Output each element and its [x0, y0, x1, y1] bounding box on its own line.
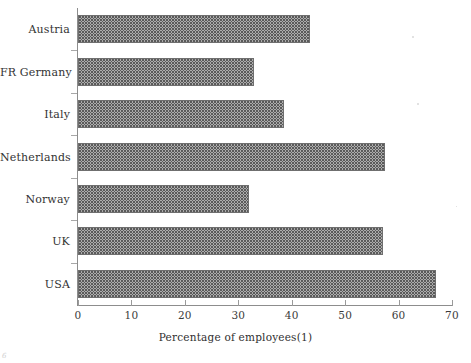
x-tick-label: 60 — [392, 309, 406, 321]
x-tick-label: 70 — [445, 309, 459, 321]
scan-speck — [417, 103, 419, 105]
y-tick — [71, 220, 77, 221]
bar-chart: AustriaFR GermanyItalyNetherlandsNorwayU… — [0, 0, 471, 363]
category-label-usa: USA — [0, 277, 70, 290]
category-label-norway: Norway — [0, 192, 70, 205]
x-tick — [345, 300, 346, 306]
x-tick — [185, 300, 186, 306]
x-tick-label: 20 — [178, 309, 192, 321]
y-tick — [71, 135, 77, 136]
x-tick — [238, 300, 239, 306]
y-tick — [71, 178, 77, 179]
x-tick-label: 30 — [231, 309, 245, 321]
scan-speck — [412, 36, 414, 38]
x-tick — [452, 300, 453, 306]
category-label-uk: UK — [0, 235, 70, 248]
x-axis-line — [77, 305, 453, 306]
bar-usa — [78, 270, 436, 298]
x-axis-title: Percentage of employees(1) — [0, 331, 471, 343]
bar-fr-germany — [78, 58, 254, 86]
x-tick-label: 0 — [75, 309, 82, 321]
x-tick-label: 50 — [338, 309, 352, 321]
x-tick — [78, 300, 79, 306]
scan-speck — [456, 206, 457, 207]
bar-austria — [78, 15, 310, 43]
y-tick — [71, 263, 77, 264]
category-label-fr-germany: FR Germany — [0, 65, 70, 78]
scan-corner-mark: 6 — [2, 352, 6, 360]
x-tick-label: 40 — [285, 309, 299, 321]
x-tick-label: 10 — [125, 309, 139, 321]
x-tick — [292, 300, 293, 306]
y-tick — [71, 93, 77, 94]
category-label-italy: Italy — [0, 108, 70, 121]
x-tick — [131, 300, 132, 306]
bar-netherlands — [78, 143, 385, 171]
bar-italy — [78, 100, 284, 128]
category-label-austria: Austria — [0, 23, 70, 36]
bar-uk — [78, 227, 383, 255]
y-tick — [71, 50, 77, 51]
category-label-netherlands: Netherlands — [0, 150, 70, 163]
bar-norway — [78, 185, 249, 213]
x-tick — [399, 300, 400, 306]
